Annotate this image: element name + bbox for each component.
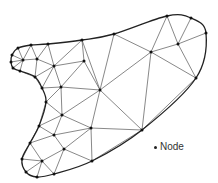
mesh-edge — [100, 34, 114, 90]
mesh-edge — [178, 33, 206, 44]
mesh-edge — [54, 135, 64, 149]
mesh-node — [47, 43, 50, 46]
mesh-edge — [64, 149, 92, 161]
mesh-node — [113, 33, 116, 36]
mesh-edge — [82, 40, 100, 90]
mesh-node — [53, 65, 56, 68]
mesh-edge — [54, 149, 64, 174]
mesh-edge — [142, 52, 151, 130]
mesh-edge — [114, 34, 151, 52]
mesh-node — [36, 58, 39, 61]
mesh-node — [90, 127, 93, 130]
mesh-edge — [151, 16, 167, 52]
mesh-node — [34, 76, 37, 79]
mesh-node — [53, 173, 56, 176]
mesh-node — [36, 176, 39, 179]
mesh-node — [61, 114, 64, 117]
mesh-node — [190, 17, 193, 20]
mesh-edge — [151, 44, 178, 52]
mesh-edge — [42, 161, 54, 174]
mesh-edge — [46, 87, 61, 102]
mesh-edge — [61, 61, 84, 87]
mesh-edge — [23, 59, 37, 60]
mesh-edge — [91, 128, 142, 130]
mesh-node — [41, 87, 44, 90]
mesh-node — [63, 148, 66, 151]
mesh-edge — [62, 90, 100, 115]
mesh-node — [30, 44, 33, 47]
node-marker-icon — [154, 146, 157, 149]
mesh-edge — [35, 59, 37, 77]
mesh-edge — [91, 128, 92, 161]
mesh-diagram — [0, 0, 218, 183]
mesh-edge — [61, 87, 100, 90]
mesh-node — [29, 142, 32, 145]
mesh-edge — [48, 44, 54, 66]
mesh-node — [45, 101, 48, 104]
mesh-node — [60, 86, 63, 89]
mesh-node — [141, 129, 144, 132]
mesh-node — [38, 125, 41, 128]
legend: Node — [154, 141, 184, 153]
mesh-node — [205, 32, 208, 35]
mesh-edge — [26, 161, 42, 172]
mesh-edge — [167, 16, 178, 44]
mesh-node — [22, 59, 25, 62]
mesh-edge — [142, 78, 196, 130]
mesh-edge — [54, 128, 91, 135]
mesh-edge — [84, 61, 100, 90]
legend-label: Node — [160, 141, 184, 153]
mesh-node — [17, 47, 20, 50]
mesh-node — [166, 15, 169, 18]
mesh-edge — [54, 66, 61, 87]
mesh-edge — [61, 87, 62, 115]
mesh-edge — [100, 52, 151, 90]
mesh-edge — [22, 159, 42, 161]
mesh-edge — [37, 161, 42, 177]
mesh-edge — [39, 126, 54, 135]
mesh-node — [19, 70, 22, 73]
mesh-edge — [42, 149, 64, 161]
mesh-edge — [62, 115, 91, 128]
mesh-edge — [92, 130, 142, 161]
mesh-edge — [64, 128, 91, 149]
mesh-node — [21, 158, 24, 161]
mesh-node — [11, 54, 14, 57]
mesh-node — [99, 89, 102, 92]
mesh-edge — [37, 59, 54, 66]
mesh-edge — [37, 44, 48, 59]
mesh-node — [53, 134, 56, 137]
mesh-edge — [178, 18, 191, 44]
mesh-edge — [46, 102, 62, 115]
mesh-edge — [23, 45, 31, 60]
mesh-node — [41, 160, 44, 163]
mesh-node — [12, 67, 15, 70]
mesh-node — [25, 171, 28, 174]
mesh-node — [177, 43, 180, 46]
mesh-nodes — [10, 15, 208, 179]
mesh-node — [150, 51, 153, 54]
mesh-edge — [30, 143, 42, 161]
mesh-edge — [100, 90, 142, 130]
mesh-node — [81, 39, 84, 42]
mesh-edge — [31, 45, 37, 59]
mesh-node — [91, 160, 94, 163]
mesh-edge — [42, 87, 61, 88]
mesh-node — [83, 60, 86, 63]
mesh-node — [10, 61, 13, 64]
mesh-edge — [91, 90, 100, 128]
mesh-node — [195, 77, 198, 80]
